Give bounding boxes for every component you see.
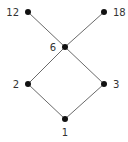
edge-1-3	[65, 84, 104, 119]
node-2-dot	[25, 81, 31, 87]
node-18-dot	[101, 9, 107, 15]
node-3-dot	[101, 81, 107, 87]
node-2-label: 2	[13, 79, 19, 90]
edge-1-2	[28, 84, 65, 119]
edge-2-6	[28, 47, 65, 84]
edge-3-6	[65, 47, 104, 84]
node-1-label: 1	[62, 127, 68, 138]
node-12-label: 12	[6, 7, 19, 18]
edges-group	[28, 12, 104, 119]
node-3-label: 3	[113, 79, 119, 90]
node-18-label: 18	[113, 7, 126, 18]
node-12-dot	[25, 9, 31, 15]
node-6-dot	[62, 44, 68, 50]
edge-6-12	[28, 12, 65, 47]
hasse-diagram: 12186231	[0, 0, 128, 142]
node-1-dot	[62, 116, 68, 122]
edge-6-18	[65, 12, 104, 47]
node-6-label: 6	[50, 42, 56, 53]
nodes-group	[25, 9, 107, 122]
